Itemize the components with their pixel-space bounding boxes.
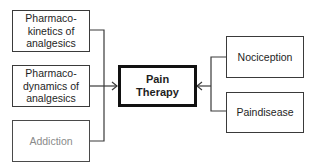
- node-label: Paindisease: [236, 106, 293, 119]
- node-pain-therapy: Pain Therapy: [118, 65, 197, 107]
- node-pharmacodynamics: Pharmaco- dynamics of analgesics: [12, 65, 90, 107]
- right-bracket-line: [211, 57, 226, 111]
- node-paindisease: Paindisease: [226, 92, 304, 133]
- node-addiction: Addiction: [12, 120, 90, 162]
- center-label: Pain Therapy: [136, 73, 179, 99]
- node-label: Pharmaco- dynamics of analgesics: [23, 67, 79, 105]
- node-nociception: Nociception: [226, 36, 304, 78]
- node-label: Pharmaco- kinetics of analgesics: [25, 12, 76, 50]
- node-pharmacokinetics: Pharmaco- kinetics of analgesics: [12, 10, 90, 52]
- node-label: Addiction: [29, 135, 72, 148]
- node-label: Nociception: [238, 51, 293, 64]
